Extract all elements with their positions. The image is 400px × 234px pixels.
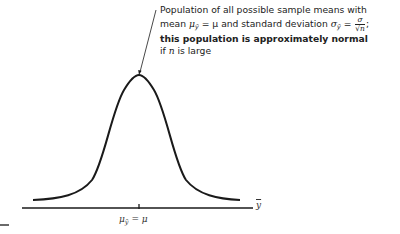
text-if: if (160, 45, 169, 56)
x-axis-label: y (256, 200, 261, 210)
y-bar-symbol: y (256, 200, 261, 210)
fraction-denominator: √n (355, 25, 365, 33)
center-equals-mu: = μ (129, 214, 148, 224)
curve-annotation: Population of all possible sample means … (160, 4, 400, 56)
text-equals-mu: = μ and standard deviation (199, 18, 331, 29)
text-is-large: is large (175, 45, 211, 56)
annotation-line-2: mean μȳ = μ and standard deviation σȳ = … (160, 16, 400, 34)
bell-curve (33, 75, 240, 200)
center-label: μȳ = μ (119, 214, 148, 226)
sigma-over-root-n: σ√n (355, 16, 365, 33)
annotation-line-3: this population is approximately normal (160, 33, 400, 45)
annotation-line-1: Population of all possible sample means … (160, 4, 400, 16)
text-mean: mean (160, 18, 189, 29)
text-semicolon: ; (366, 18, 369, 29)
annotation-line-4: if n is large (160, 45, 400, 57)
annotation-pointer (140, 10, 156, 72)
text-equals: = (341, 18, 355, 29)
